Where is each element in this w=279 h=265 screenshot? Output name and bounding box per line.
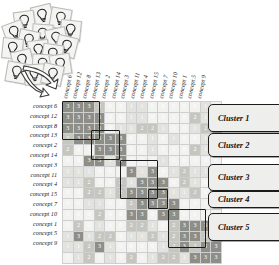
matrix-cell: 2 <box>147 123 158 134</box>
matrix-cell: 0 <box>190 199 201 210</box>
matrix-column-headers: concept 6concept 12concept 8concept 13co… <box>62 52 212 100</box>
matrix-cell: 1 <box>126 231 137 242</box>
matrix-cell: 2 <box>94 188 105 199</box>
matrix-cell: 1 <box>63 231 74 242</box>
matrix-row-label: concept 7 <box>0 199 60 209</box>
matrix-cell: 0 <box>105 177 116 188</box>
matrix-cell: 0 <box>105 112 116 123</box>
matrix-cell: 1 <box>190 177 201 188</box>
matrix-cell: 0 <box>105 209 116 220</box>
matrix-cell: 0 <box>84 145 95 156</box>
matrix-col-header-cell: concept 2 <box>100 52 110 100</box>
matrix-cell: 0 <box>190 209 201 220</box>
matrix-cell: 2 <box>190 145 201 156</box>
matrix-cell: 1 <box>105 188 116 199</box>
matrix-cell: 3 <box>115 134 126 145</box>
matrix-cell: 3 <box>190 231 201 242</box>
matrix-cell: 0 <box>73 155 84 166</box>
matrix-row: 200333001000211 <box>63 145 222 156</box>
matrix-cell: 3 <box>126 166 137 177</box>
matrix-cell: 1 <box>105 253 116 264</box>
matrix-cell: 0 <box>126 155 137 166</box>
matrix-cell: 3 <box>84 134 95 145</box>
matrix-cell: 1 <box>137 112 148 123</box>
matrix-cell: 0 <box>115 112 126 123</box>
matrix-row: 002212333311201 <box>63 188 222 199</box>
matrix-cell: 3 <box>179 220 190 231</box>
matrix-cell: 3 <box>84 112 95 123</box>
matrix-cell: 2 <box>94 102 105 113</box>
matrix-cell: 3 <box>63 123 74 134</box>
matrix-row: 020100221023331 <box>63 220 222 231</box>
matrix-cell: 0 <box>179 134 190 145</box>
matrix-cell: 3 <box>126 209 137 220</box>
matrix-cell: 0 <box>115 220 126 231</box>
matrix-cell: 0 <box>190 102 201 113</box>
matrix-cell: 2 <box>84 188 95 199</box>
matrix-cell: 1 <box>126 102 137 113</box>
matrix-cell: 3 <box>147 199 158 210</box>
matrix-cell: 3 <box>84 155 95 166</box>
matrix-cell: 1 <box>105 155 116 166</box>
matrix-cell: 1 <box>158 123 169 134</box>
matrix-cell: 3 <box>94 123 105 134</box>
matrix-row: 001100233330000 <box>63 199 222 210</box>
matrix-row-label: concept 1 <box>0 219 60 229</box>
matrix-col-header-cell: concept 15 <box>148 52 158 100</box>
matrix-cell: 3 <box>94 155 105 166</box>
matrix-row-label: concept 9 <box>0 238 60 248</box>
matrix-row: 333200110000010 <box>63 102 222 113</box>
matrix-cell: 1 <box>73 242 84 253</box>
matrix-cell: 0 <box>179 145 190 156</box>
matrix-row-label: concept 4 <box>0 179 60 189</box>
matrix-cell: 0 <box>137 253 148 264</box>
matrix-cell: 0 <box>105 123 116 134</box>
matrix-cell: 3 <box>147 188 158 199</box>
matrix-cell: 1 <box>147 145 158 156</box>
matrix-cell: 0 <box>179 123 190 134</box>
matrix-cell: 0 <box>147 112 158 123</box>
matrix-cell: 0 <box>115 231 126 242</box>
matrix-cell: 1 <box>84 231 95 242</box>
matrix-cell: 1 <box>158 231 169 242</box>
matrix-cell: 3 <box>137 177 148 188</box>
matrix-row: 112310000123233 <box>63 242 222 253</box>
matrix-cell: 1 <box>115 123 126 134</box>
matrix-cell: 0 <box>168 145 179 156</box>
matrix-cell: 3 <box>200 242 211 253</box>
matrix-cell: 0 <box>168 155 179 166</box>
matrix-cell: 1 <box>147 253 158 264</box>
similarity-matrix: 3332001100000103333001100002113333011221… <box>62 101 222 264</box>
matrix-cell: 3 <box>105 145 116 156</box>
matrix-cell: 0 <box>115 199 126 210</box>
matrix-cell: 3 <box>147 166 158 177</box>
matrix-row: 233333001010010 <box>63 134 222 145</box>
matrix-cell: 1 <box>126 123 137 134</box>
matrix-cell: 2 <box>126 253 137 264</box>
matrix-cell: 0 <box>147 102 158 113</box>
matrix-cell: 2 <box>84 177 95 188</box>
matrix-cell: 1 <box>84 199 95 210</box>
matrix-cell: 3 <box>137 199 148 210</box>
matrix-cell: 1 <box>190 123 201 134</box>
matrix-cell: 3 <box>158 209 169 220</box>
matrix-cell: 0 <box>84 209 95 220</box>
matrix-cell: 0 <box>84 220 95 231</box>
matrix-row-label: concept 15 <box>0 189 60 199</box>
matrix-col-header-cell: concept 13 <box>91 52 101 100</box>
matrix-cell: 0 <box>190 134 201 145</box>
matrix-row-label: concept 14 <box>0 150 60 160</box>
matrix-cell: 1 <box>63 166 74 177</box>
matrix-cell: 2 <box>168 231 179 242</box>
matrix-cell: 0 <box>105 102 116 113</box>
matrix-row-label: concept 11 <box>0 170 60 180</box>
matrix-cell: 0 <box>147 155 158 166</box>
matrix-cell: 0 <box>94 253 105 264</box>
matrix-cell: 0 <box>63 155 74 166</box>
matrix-cell: 3 <box>158 188 169 199</box>
matrix-cell: 0 <box>158 145 169 156</box>
matrix-cell: 0 <box>105 220 116 231</box>
matrix-cell: 0 <box>168 177 179 188</box>
matrix-row-label: concept 6 <box>0 101 60 111</box>
matrix-cell: 1 <box>147 134 158 145</box>
